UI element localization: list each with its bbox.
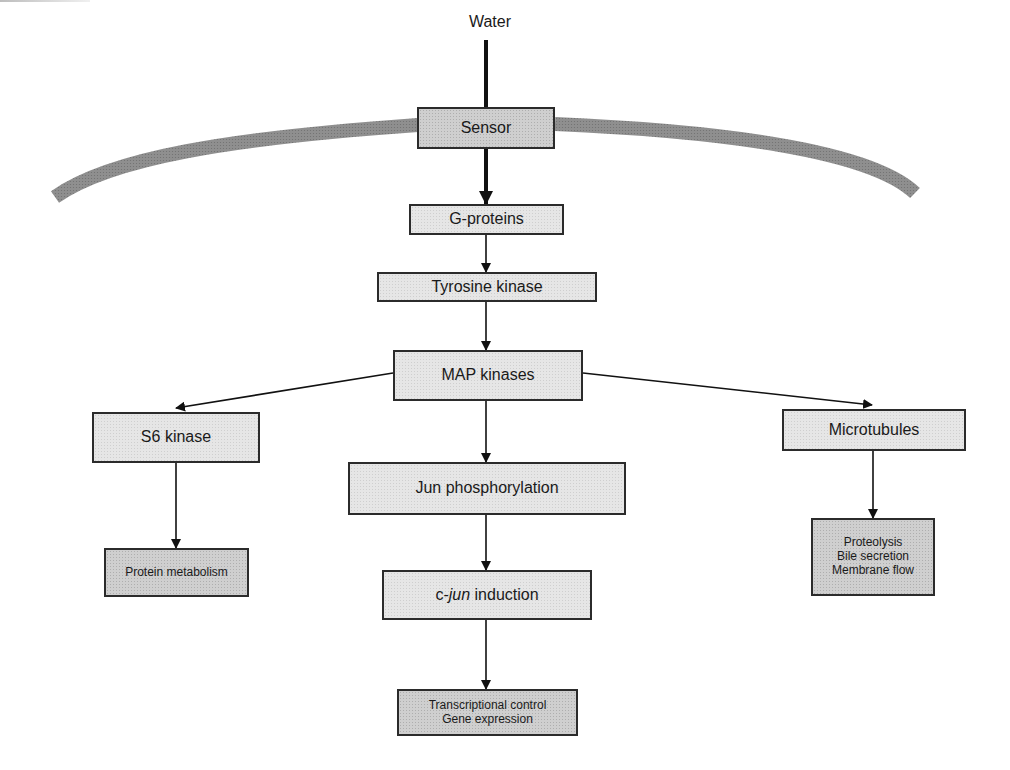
cjun-suffix: induction (470, 586, 539, 603)
node-jun-phosphorylation: Jun phosphorylation (348, 462, 626, 515)
node-s6-kinase-label: S6 kinase (141, 428, 211, 446)
membrane-left-arc (55, 125, 418, 197)
edge-map-microtubules (583, 373, 872, 405)
microtubule-effects-lines: Proteolysis Bile secretion Membrane flow (832, 536, 914, 577)
node-sensor: Sensor (417, 107, 555, 149)
node-tyrosine-kinase: Tyrosine kinase (377, 272, 597, 302)
transcription-lines: Transcriptional control Gene expression (429, 699, 547, 727)
cjun-prefix: c- (435, 586, 448, 603)
node-jun-phosphorylation-label: Jun phosphorylation (415, 479, 558, 497)
cjun-italic: jun (449, 586, 470, 603)
membrane-right-arc (555, 124, 915, 193)
edge-map-s6 (176, 373, 393, 408)
node-s6-kinase: S6 kinase (92, 412, 260, 463)
node-cjun-induction-label: c-jun induction (435, 586, 538, 604)
effect-bile-secretion: Bile secretion (832, 550, 914, 564)
effect-membrane-flow: Membrane flow (832, 564, 914, 578)
node-protein-metabolism-label: Protein metabolism (125, 566, 228, 580)
gene-expression: Gene expression (429, 713, 547, 727)
node-transcription: Transcriptional control Gene expression (397, 689, 578, 736)
water-label: Water (460, 13, 520, 31)
node-map-kinases-label: MAP kinases (441, 366, 534, 384)
node-tyrosine-kinase-label: Tyrosine kinase (431, 278, 542, 296)
node-g-proteins-label: G-proteins (449, 210, 524, 228)
node-microtubules: Microtubules (782, 409, 966, 451)
node-sensor-label: Sensor (461, 119, 512, 137)
node-cjun-induction: c-jun induction (382, 570, 592, 620)
node-microtubule-effects: Proteolysis Bile secretion Membrane flow (811, 518, 935, 596)
effect-proteolysis: Proteolysis (832, 536, 914, 550)
transcriptional-control: Transcriptional control (429, 699, 547, 713)
node-map-kinases: MAP kinases (393, 350, 583, 401)
node-microtubules-label: Microtubules (829, 421, 920, 439)
node-g-proteins: G-proteins (409, 204, 564, 235)
node-protein-metabolism: Protein metabolism (104, 548, 249, 597)
signaling-diagram: Water Sensor G-proteins Tyrosine kinase … (0, 0, 1010, 770)
